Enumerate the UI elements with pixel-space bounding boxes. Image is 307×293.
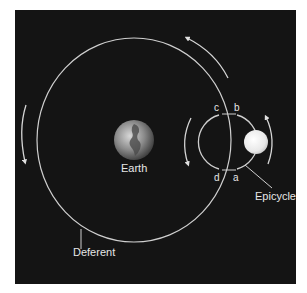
planet-icon: [244, 130, 268, 154]
point-b-label: b: [234, 103, 240, 113]
deferent-arrow-left-icon: [22, 105, 26, 162]
epicycle-label: Epicycle: [255, 191, 296, 202]
deferent-arrow-top-icon: [187, 38, 228, 78]
epicycle-arrow-left-icon: [185, 118, 191, 164]
point-d-label: d: [214, 173, 220, 183]
epicycle-leader-line: [245, 165, 272, 188]
deferent-label: Deferent: [73, 247, 115, 258]
earth-label: Earth: [121, 163, 147, 174]
epicycle-arc-left: [198, 115, 219, 169]
point-c-label: c: [214, 103, 219, 113]
epicycle-diagram: [0, 0, 307, 293]
point-a-label: a: [233, 173, 239, 183]
